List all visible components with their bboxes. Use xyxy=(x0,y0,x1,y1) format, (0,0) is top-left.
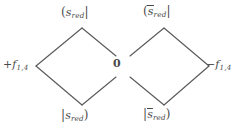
right-diamond xyxy=(130,28,209,105)
right-diamond-upper-left-edge xyxy=(130,28,164,56)
subscript-indices: 1,4 xyxy=(17,63,29,72)
label-bra-s-red-top-left: (sred| xyxy=(61,6,89,18)
left-diamond-lower-left-edge xyxy=(36,66,82,105)
bra-bar-glyph: | xyxy=(166,4,170,18)
symbol-f: f xyxy=(215,58,219,71)
label-energy-plus-f: +f1,4 xyxy=(3,59,29,70)
label-ket-s-red-bottom-left: |sred) xyxy=(61,109,89,121)
label-energy-minus-f: −f1,4 xyxy=(206,59,232,70)
label-bra-s-bar-red-top-right: (sred| xyxy=(143,5,171,17)
label-ket-s-bar-red-bottom-right: |sred) xyxy=(143,108,171,120)
symbol-f: f xyxy=(12,58,16,71)
subscript-indices: 1,4 xyxy=(220,63,232,72)
left-diamond-upper-left-edge xyxy=(36,28,82,66)
right-diamond-upper-right-edge xyxy=(164,28,209,66)
symbol-s: s xyxy=(148,5,154,18)
symbol-s: s xyxy=(66,6,72,19)
subscript-red: red xyxy=(154,10,167,19)
close-paren-glyph: ) xyxy=(84,108,89,122)
bra-bar-glyph: | xyxy=(84,5,88,19)
overbar-wrapper: s xyxy=(148,6,154,17)
left-diamond-lower-right-edge xyxy=(82,77,116,105)
right-diamond-lower-right-edge xyxy=(164,66,209,105)
subscript-red: red xyxy=(153,113,166,122)
plus-sign: + xyxy=(3,58,12,71)
subscript-red: red xyxy=(71,114,84,123)
label-zero-energy: 0 xyxy=(113,58,121,69)
overbar-line xyxy=(147,108,154,109)
left-diamond xyxy=(36,28,116,105)
subscript-red: red xyxy=(72,11,85,20)
left-diamond-upper-right-edge xyxy=(82,28,116,56)
diagram-figure: (sred| (sred| |sred) |sred) +f1,4 −f1,4 … xyxy=(0,0,240,131)
close-paren-glyph: ) xyxy=(166,107,171,121)
right-diamond-lower-left-edge xyxy=(130,77,164,105)
overbar-line xyxy=(147,5,154,6)
minus-sign: − xyxy=(206,58,215,71)
